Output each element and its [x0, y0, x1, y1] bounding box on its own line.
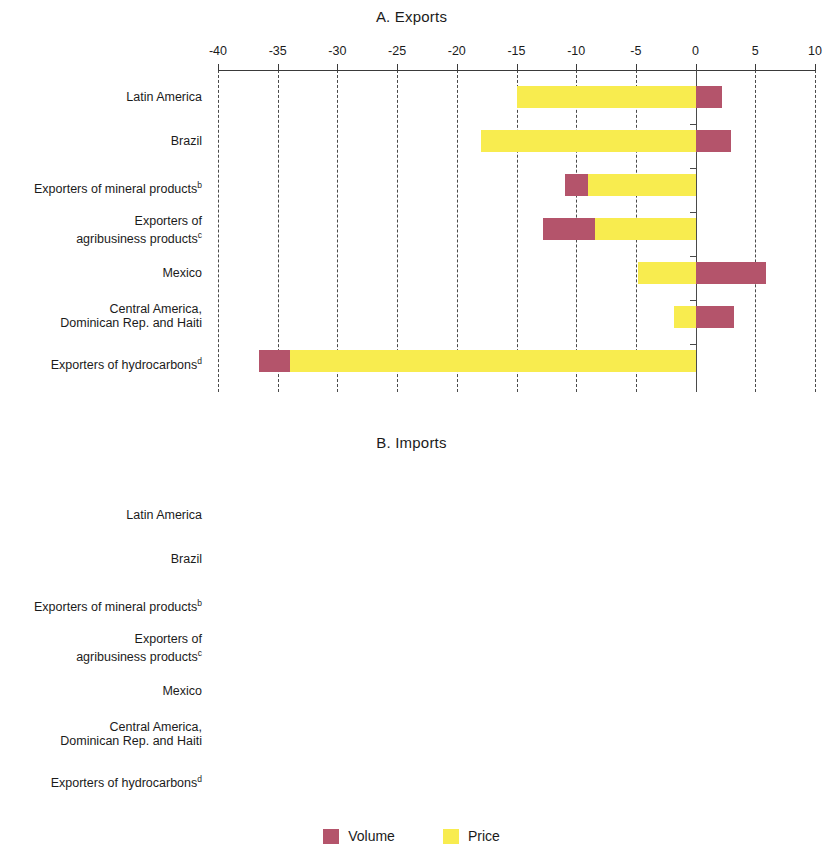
bar-segment-price: [517, 86, 696, 108]
axis-tick-label: -40: [209, 44, 227, 58]
legend-item-volume: Volume: [323, 828, 395, 844]
gridline: [815, 70, 816, 392]
zero-axis-tick: [690, 168, 697, 169]
axis-tick: [397, 64, 398, 71]
bar-segment-volume: [543, 218, 596, 240]
chart-legend: Volume Price: [0, 828, 823, 844]
legend-label-volume: Volume: [348, 828, 395, 844]
category-label: Central America,Dominican Rep. and Haiti: [0, 302, 202, 330]
category-label: Mexico: [0, 684, 202, 698]
category-label: Central America,Dominican Rep. and Haiti: [0, 720, 202, 748]
zero-axis-tick: [690, 212, 697, 213]
axis-tick: [337, 64, 338, 71]
bar-segment-price: [595, 218, 695, 240]
gridline: [457, 70, 458, 392]
bar-segment-volume: [565, 174, 588, 196]
axis-tick: [755, 64, 756, 71]
axis-tick: [278, 64, 279, 71]
bar-segment-volume: [696, 262, 766, 284]
axis-tick-label: 5: [752, 44, 759, 58]
zero-axis-tick: [690, 256, 697, 257]
gridline: [278, 70, 279, 392]
axis-tick-label: 10: [808, 44, 822, 58]
axis-tick: [517, 64, 518, 71]
axis-tick: [218, 64, 219, 71]
category-label: Brazil: [0, 552, 202, 566]
gridline: [218, 70, 219, 392]
bar-segment-price: [588, 174, 695, 196]
bar-segment-volume: [696, 130, 732, 152]
zero-axis-tick: [690, 300, 697, 301]
gridline: [517, 70, 518, 392]
axis-tick-label: -15: [507, 44, 525, 58]
category-label: Exporters of mineral productsb: [0, 178, 202, 196]
gridline: [397, 70, 398, 392]
bar-segment-volume: [696, 306, 734, 328]
panel-b-title: B. Imports: [0, 434, 823, 451]
volume-swatch-icon: [323, 829, 339, 844]
bar-segment-price: [674, 306, 695, 328]
category-label: Exporters ofagribusiness productsc: [0, 632, 202, 664]
category-label: Exporters of hydrocarbonsd: [0, 354, 202, 372]
bar-segment-price: [290, 350, 696, 372]
category-label: Exporters of hydrocarbonsd: [0, 772, 202, 790]
panel-exports: A. Exports Latin AmericaBrazilExporters …: [0, 0, 823, 420]
axis-tick-label: -30: [328, 44, 346, 58]
axis-tick: [457, 64, 458, 71]
axis-tick-label: -10: [567, 44, 585, 58]
panel-a-title: A. Exports: [0, 8, 823, 25]
category-label: Latin America: [0, 508, 202, 522]
zero-axis-tick: [690, 124, 697, 125]
zero-axis-tick: [690, 344, 697, 345]
gridline: [337, 70, 338, 392]
axis-tick: [576, 64, 577, 71]
bar-segment-price: [638, 262, 695, 284]
panel-imports: B. Imports Latin AmericaBrazilExporters …: [0, 420, 823, 820]
price-swatch-icon: [443, 829, 459, 844]
panel-a-plot-area: -40-35-30-25-20-15-10-50510: [218, 70, 815, 392]
axis-tick-label: -25: [388, 44, 406, 58]
bar-segment-volume: [696, 86, 722, 108]
category-label: Exporters ofagribusiness productsc: [0, 214, 202, 246]
axis-tick: [636, 64, 637, 71]
legend-label-price: Price: [468, 828, 500, 844]
legend-item-price: Price: [443, 828, 500, 844]
gridline: [755, 70, 756, 392]
category-label: Exporters of mineral productsb: [0, 596, 202, 614]
category-label: Mexico: [0, 266, 202, 280]
axis-tick: [815, 64, 816, 71]
category-label: Brazil: [0, 134, 202, 148]
axis-tick-label: -20: [448, 44, 466, 58]
bar-segment-volume: [259, 350, 290, 372]
axis-tick-label: -35: [269, 44, 287, 58]
axis-tick-label: 0: [692, 44, 699, 58]
bar-segment-price: [481, 130, 696, 152]
axis-tick-label: -5: [630, 44, 641, 58]
category-label: Latin America: [0, 90, 202, 104]
